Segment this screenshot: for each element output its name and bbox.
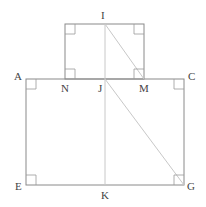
right-angle-mark-A xyxy=(26,79,36,89)
label-K: K xyxy=(101,189,109,201)
label-M: M xyxy=(139,82,149,94)
right-angle-mark-top-right xyxy=(134,24,144,34)
right-angle-mark-top-left xyxy=(65,24,75,34)
segment-JG xyxy=(105,79,184,185)
right-angle-mark-E xyxy=(26,175,36,185)
segment-IM xyxy=(105,24,144,79)
right-angle-mark-C xyxy=(174,79,184,89)
label-G: G xyxy=(187,180,195,192)
label-A: A xyxy=(14,70,22,82)
right-angle-mark-N xyxy=(65,69,75,79)
label-N: N xyxy=(61,82,69,94)
label-E: E xyxy=(15,180,22,192)
label-I: I xyxy=(101,9,105,21)
label-C: C xyxy=(188,70,195,82)
label-J: J xyxy=(98,82,103,94)
geometry-diagram: I A N J M C E K G xyxy=(0,0,206,207)
